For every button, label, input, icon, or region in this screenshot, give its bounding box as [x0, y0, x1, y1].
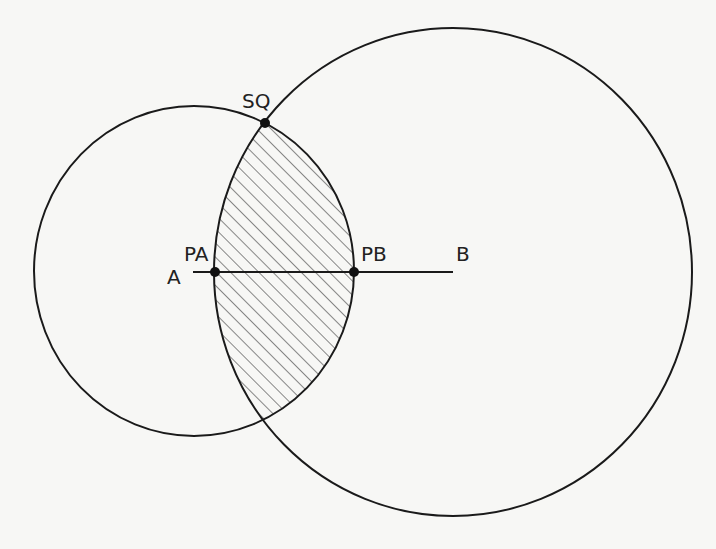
label-sq: SQ — [242, 89, 270, 113]
label-b: B — [456, 242, 470, 266]
point-sq — [260, 118, 270, 128]
point-pa — [210, 267, 220, 277]
label-a: A — [167, 265, 181, 289]
label-pa: PA — [184, 242, 209, 266]
label-pb: PB — [361, 242, 387, 266]
intersecting-circles-diagram: A B PA PB SQ — [0, 0, 716, 549]
point-pb — [349, 267, 359, 277]
